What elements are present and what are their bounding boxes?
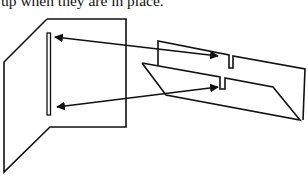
assembly-diagram <box>0 0 308 177</box>
front-panel <box>4 19 126 172</box>
slot <box>47 33 51 115</box>
base-panel <box>142 63 300 120</box>
upper-arrow <box>55 37 218 56</box>
